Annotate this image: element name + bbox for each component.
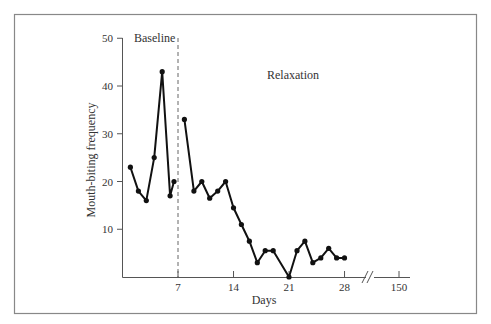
data-point-marker (168, 193, 173, 198)
x-tick-label: 28 (339, 281, 351, 293)
y-tick-label: 50 (102, 32, 114, 44)
data-point-marker (247, 239, 252, 244)
data-point-marker (263, 248, 268, 253)
y-ticks: 1020304050 (102, 32, 123, 235)
series-baseline (128, 69, 177, 203)
data-point-marker (128, 165, 133, 170)
data-point-marker (334, 255, 339, 260)
data-point-marker (182, 117, 187, 122)
data-point-marker (239, 222, 244, 227)
data-point-marker (171, 179, 176, 184)
data-point-marker (271, 248, 276, 253)
data-point-marker (207, 196, 212, 201)
data-point-marker (310, 260, 315, 265)
chart-figure: 1020304050 7142128150 Baseline Relaxatio… (0, 0, 491, 324)
baseline-label: Baseline (134, 31, 175, 45)
data-point-marker (318, 255, 323, 260)
x-axis-title: Days (252, 293, 277, 307)
y-tick-label: 10 (102, 223, 114, 235)
data-point-marker (215, 189, 220, 194)
data-point-marker (286, 274, 291, 279)
data-point-marker (294, 248, 299, 253)
data-point-marker (302, 239, 307, 244)
data-point-marker (160, 69, 165, 74)
data-point-marker (191, 189, 196, 194)
data-point-marker (152, 155, 157, 160)
data-point-marker (231, 205, 236, 210)
y-tick-label: 40 (102, 80, 114, 92)
data-series (128, 69, 347, 280)
data-point-marker (136, 189, 141, 194)
x-tick-label: 150 (391, 281, 408, 293)
data-point-marker (223, 179, 228, 184)
y-tick-label: 30 (102, 128, 114, 140)
relaxation-label: Relaxation (267, 68, 319, 82)
x-tick-label: 7 (175, 281, 181, 293)
line-chart: 1020304050 7142128150 Baseline Relaxatio… (0, 0, 491, 324)
x-tick-label: 14 (228, 281, 240, 293)
series-relaxation (182, 117, 347, 280)
data-point-marker (342, 255, 347, 260)
series-line (130, 72, 174, 201)
data-point-marker (199, 179, 204, 184)
y-axis-title: Mouth-biting frequency (84, 103, 98, 218)
x-ticks: 7142128150 (175, 271, 407, 293)
data-point-marker (326, 246, 331, 251)
y-tick-label: 20 (102, 176, 114, 188)
data-point-marker (144, 198, 149, 203)
data-point-marker (255, 260, 260, 265)
x-tick-label: 21 (284, 281, 295, 293)
